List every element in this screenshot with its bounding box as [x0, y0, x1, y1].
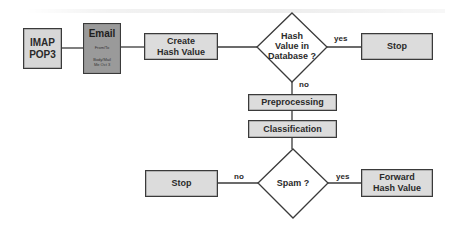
- hash-check-line2: Value in: [257, 41, 327, 51]
- email-node: Email From/To Body/Mail Me Oct 3: [83, 23, 121, 74]
- stop-bottom-node: Stop: [145, 170, 218, 197]
- imap-label: IMAP: [30, 37, 55, 49]
- email-field-date: Me Oct 3: [94, 62, 110, 67]
- preprocessing-node: Preprocessing: [248, 94, 337, 111]
- classification-label: Classification: [263, 124, 322, 135]
- pop3-label: POP3: [29, 49, 56, 61]
- stop-top-node: Stop: [361, 33, 433, 60]
- forward-hash-value-node: Forward Hash Value: [361, 169, 433, 197]
- email-title: Email: [89, 28, 116, 39]
- stop-top-label: Stop: [387, 41, 407, 52]
- stop-bottom-label: Stop: [172, 178, 192, 189]
- spam-yes-label: yes: [336, 172, 349, 181]
- hash-yes-label: yes: [334, 34, 347, 43]
- create-hash-value-node: Create Hash Value: [144, 33, 218, 60]
- spam-no-label: no: [234, 172, 244, 181]
- hash-no-label: no: [299, 80, 309, 89]
- forward-line1: Forward: [379, 172, 415, 183]
- spam-check-label: Spam ?: [258, 178, 328, 188]
- preprocessing-label: Preprocessing: [261, 97, 324, 108]
- hash-check-line1: Hash: [257, 31, 327, 41]
- create-hash-line1: Create: [167, 36, 195, 47]
- spam-check-text: Spam ?: [277, 178, 310, 188]
- hash-check-label: Hash Value in Database ?: [257, 31, 327, 61]
- create-hash-line2: Hash Value: [157, 47, 205, 58]
- classification-node: Classification: [248, 120, 337, 138]
- imap-pop3-node: IMAP POP3: [23, 28, 62, 69]
- forward-line2: Hash Value: [373, 183, 421, 194]
- email-field-from-to: From/To: [95, 45, 110, 50]
- hash-check-line3: Database ?: [257, 51, 327, 61]
